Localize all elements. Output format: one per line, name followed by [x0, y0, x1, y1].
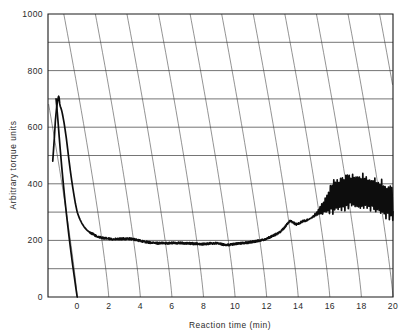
y-tick-label: 400 [27, 179, 43, 189]
x-tick-label: 6 [169, 301, 174, 311]
x-tick-label: 2 [106, 301, 111, 311]
x-tick-label: 12 [262, 301, 272, 311]
x-tick-label: 20 [388, 301, 398, 311]
x-tick-label: 16 [325, 301, 335, 311]
torque-vs-time-chart: 02468101214161820 02004006008001000 Reac… [0, 0, 412, 335]
x-tick-label: 8 [201, 301, 206, 311]
y-tick-label: 200 [27, 235, 43, 245]
x-tick-label: 18 [356, 301, 366, 311]
y-tick-label: 800 [27, 66, 43, 76]
x-tick-label: 4 [138, 301, 143, 311]
y-tick-label: 600 [27, 122, 43, 132]
x-axis-title: Reaction time (min) [189, 320, 271, 330]
y-axis-title: Arbitrary torque units [8, 121, 18, 210]
chart-container: 02468101214161820 02004006008001000 Reac… [0, 0, 412, 335]
y-tick-label: 0 [38, 292, 43, 302]
y-tick-label: 1000 [22, 9, 43, 19]
x-tick-label: 14 [293, 301, 303, 311]
x-tick-label: 10 [230, 301, 240, 311]
x-tick-label: 0 [75, 301, 80, 311]
